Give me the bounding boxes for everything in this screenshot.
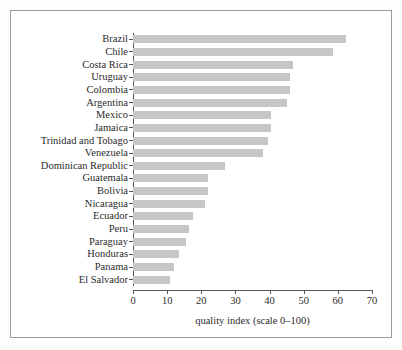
category-label: Mexico [96,110,128,121]
x-axis-tick [167,290,168,294]
category-label: Ecuador [93,211,128,222]
category-label: El Salvador [79,274,128,285]
bar-row: Jamaica [133,122,372,135]
bar-row: Ecuador [133,210,372,223]
category-label: Costa Rica [82,59,128,70]
bar-row: El Salvador [133,273,372,286]
x-axis-tick [304,290,305,294]
x-axis-tick [338,290,339,294]
category-label: Trinidad and Tobago [41,135,128,146]
bar-row: Bolivia [133,185,372,198]
bar [133,263,174,271]
bar-row: Paraguay [133,235,372,248]
bar [133,99,287,107]
x-axis-tick [235,290,236,294]
category-label: Colombia [87,85,128,96]
bar-row: Colombia [133,84,372,97]
x-axis-tick-label: 0 [130,296,135,307]
x-axis-tick-label: 70 [367,296,378,307]
bar-row: Trinidad and Tobago [133,134,372,147]
plot-area: BrazilChileCosta RicaUruguayColombiaArge… [133,33,372,286]
category-label: Argentina [86,97,128,108]
bar-row: Venezuela [133,147,372,160]
bar-row: Guatemala [133,172,372,185]
bar-row: Nicaragua [133,197,372,210]
category-label: Brazil [102,34,128,45]
x-axis-line [133,290,372,291]
category-label: Paraguay [89,236,128,247]
bar-row: Panama [133,261,372,274]
bar [133,149,263,157]
x-axis-tick-label: 60 [333,296,344,307]
category-label: Nicaragua [85,199,128,210]
bar [133,238,186,246]
category-label: Bolivia [97,186,128,197]
x-axis-tick-label: 20 [196,296,207,307]
bar [133,212,193,220]
bar [133,86,290,94]
bar [133,73,290,81]
bar-row: Uruguay [133,71,372,84]
x-axis-tick-label: 10 [162,296,173,307]
x-axis-label: quality index (scale 0–100) [133,315,372,326]
bar [133,48,333,56]
bar-row: Chile [133,46,372,59]
bar [133,137,268,145]
category-label: Jamaica [94,123,128,134]
bar-row: Costa Rica [133,58,372,71]
bar [133,124,271,132]
x-axis-tick [201,290,202,294]
bar [133,200,205,208]
bar [133,250,179,258]
bar-row: Peru [133,223,372,236]
x-axis-tick-label: 50 [298,296,309,307]
bar-row: Brazil [133,33,372,46]
bar [133,61,293,69]
bar [133,187,208,195]
category-label: Dominican Republic [41,161,128,172]
bar [133,174,208,182]
bar [133,111,271,119]
bar [133,35,346,43]
bar-row: Dominican Republic [133,160,372,173]
category-label: Guatemala [83,173,128,184]
bar-row: Honduras [133,248,372,261]
x-axis-tick [133,290,134,294]
category-label: Venezuela [85,148,128,159]
category-label: Chile [105,47,128,58]
chart-figure: BrazilChileCosta RicaUruguayColombiaArge… [0,0,402,350]
bar-row: Argentina [133,96,372,109]
category-label: Uruguay [91,72,128,83]
category-label: Peru [109,224,128,235]
bar [133,162,225,170]
x-axis-tick-label: 40 [264,296,275,307]
x-axis-tick-label: 30 [230,296,241,307]
x-axis-tick [270,290,271,294]
bar-row: Mexico [133,109,372,122]
bar [133,276,170,284]
category-label: Honduras [87,249,128,260]
category-label: Panama [95,262,128,273]
bar [133,225,189,233]
x-axis-tick [372,290,373,294]
